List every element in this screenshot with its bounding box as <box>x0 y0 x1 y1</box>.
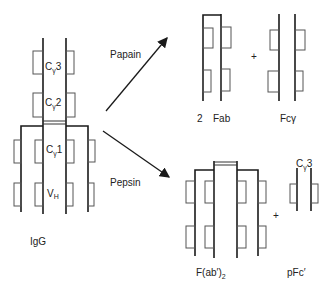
papain-label: Papain <box>110 49 141 60</box>
fab-count: 2 <box>197 113 203 124</box>
fab-fragment <box>203 14 231 101</box>
igg-cleavage-diagram: Cγ3 Cγ2 Cγ1 VH IgG Papain Pepsin 2 Fab +… <box>0 0 327 295</box>
plus-sign-pepsin: + <box>273 210 279 221</box>
fc-label: Fcγ <box>280 113 296 124</box>
fab2-fragment <box>186 161 266 258</box>
domain-label-cg1: Cγ1 <box>46 144 63 158</box>
fc-fragment <box>268 14 305 101</box>
igg-label: IgG <box>30 236 46 247</box>
plus-sign-papain: + <box>251 51 257 62</box>
fab-label: Fab <box>213 113 231 124</box>
igg-molecule: Cγ3 Cγ2 Cγ1 VH IgG <box>14 38 95 247</box>
igg-light-chain-left <box>21 126 43 212</box>
pfc-label: pFc′ <box>287 267 306 278</box>
pfc-fragment <box>290 168 318 211</box>
pepsin-label: Pepsin <box>110 177 141 188</box>
fab2-label: F(ab′)2 <box>196 267 226 280</box>
igg-light-chain-right <box>66 126 88 212</box>
domain-label-vh: VH <box>47 188 59 200</box>
domain-label-cg3: Cγ3 <box>45 61 62 75</box>
pepsin-arrow-icon <box>103 131 169 177</box>
domain-label-cg2: Cγ2 <box>45 97 62 111</box>
